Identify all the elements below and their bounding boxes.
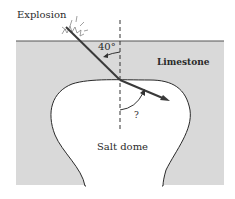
angle-40-label: 40°	[98, 41, 116, 52]
salt-dome-label: Salt dome	[97, 141, 148, 152]
unknown-angle-label: ?	[134, 110, 139, 120]
explosion-label: Explosion	[17, 9, 67, 20]
dome-base-mask	[86, 184, 162, 188]
salt-dome-diagram: Explosion 40° Limestone ? Salt dome	[0, 0, 235, 199]
limestone-label: Limestone	[157, 57, 210, 67]
